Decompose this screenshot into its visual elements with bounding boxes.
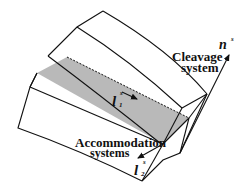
l1-vector-subscript: 1: [119, 101, 123, 109]
normal-vector-label: n: [219, 37, 227, 52]
normal-vector-superscript: s: [230, 35, 234, 43]
l1-vector-superscript: s: [119, 89, 123, 97]
cleavage-label-line2: system: [181, 60, 219, 75]
l2-vector-label: l: [134, 162, 139, 178]
accommodation-label-line2: systems: [90, 146, 130, 160]
l2-vector-superscript: s: [142, 158, 146, 166]
cleavage-diagram: Cleavage system Accommodation systems n …: [0, 0, 246, 191]
l2-vector-subscript: 2: [140, 170, 145, 178]
